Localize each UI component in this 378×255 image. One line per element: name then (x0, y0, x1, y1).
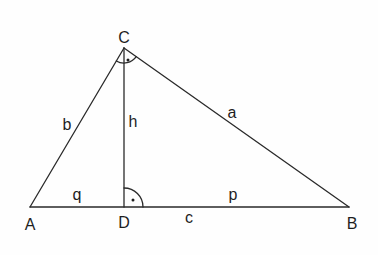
vertex-label-b: B (347, 215, 358, 232)
side-label-c: c (185, 209, 193, 226)
right-angle-dot-c (127, 59, 130, 62)
side-a (124, 48, 349, 207)
side-label-h: h (129, 113, 138, 130)
vertex-label-c: C (118, 29, 130, 46)
vertex-label-a: A (25, 216, 36, 233)
side-label-a: a (228, 104, 237, 121)
right-angle-arc-d (124, 188, 143, 207)
vertex-label-d: D (118, 214, 130, 231)
side-label-q: q (73, 186, 82, 203)
triangle-diagram: C A D B b h a q c p (0, 0, 378, 255)
right-angle-dot-d (132, 199, 135, 202)
side-label-b: b (63, 116, 72, 133)
side-label-p: p (229, 186, 238, 203)
side-b (30, 48, 124, 207)
right-angle-arc-c (116, 57, 136, 63)
